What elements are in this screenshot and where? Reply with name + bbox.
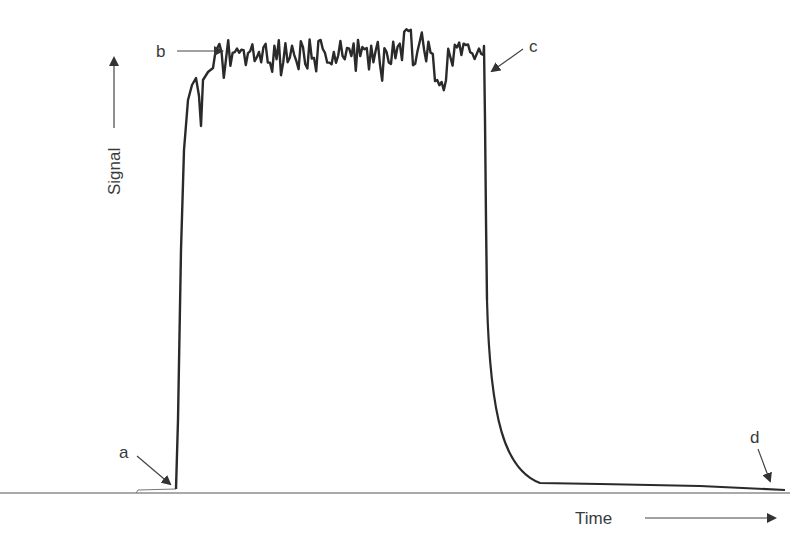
signal-time-chart: Signal Time a b c d — [0, 0, 811, 551]
annotation-a-label: a — [119, 443, 129, 462]
x-axis-label: Time — [575, 509, 612, 528]
annotation-d-label: d — [750, 428, 759, 447]
signal-curve — [176, 29, 487, 489]
annotation-d-arrow — [758, 449, 770, 481]
pre-signal-baseline — [136, 489, 176, 493]
annotation-c-label: c — [529, 37, 538, 56]
decay-tail — [487, 300, 785, 490]
annotation-b-label: b — [156, 42, 165, 61]
annotation-c-arrow — [492, 49, 523, 71]
y-axis-label: Signal — [105, 148, 124, 195]
annotation-a-arrow — [137, 456, 170, 484]
